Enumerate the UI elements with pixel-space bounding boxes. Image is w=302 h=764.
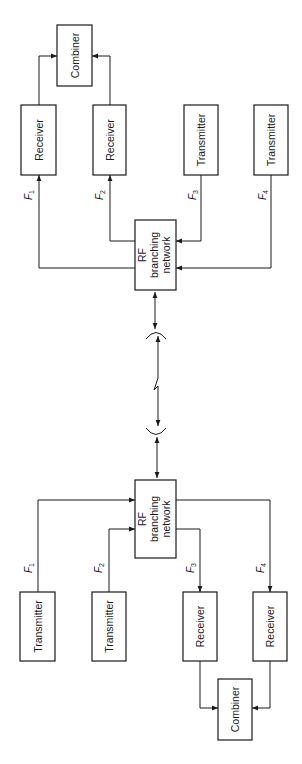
top-transmitter-3: Transmitter <box>184 105 218 175</box>
wire-r2-to-combiner <box>92 56 110 105</box>
radio-link <box>146 292 166 478</box>
top-transmitter-3-label: Transmitter <box>195 113 207 166</box>
bottom-receiver-3: Receiver <box>183 592 217 661</box>
wire-t2-to-rf <box>109 529 135 592</box>
top-station: Combiner Receiver Receiver Transmitter T… <box>21 25 288 290</box>
bottom-station: RF branching network Transmitter Transmi… <box>20 480 287 740</box>
bottom-combiner: Combiner <box>218 679 252 740</box>
top-rf-line1: RF <box>136 248 148 262</box>
bottom-rf-line3: network <box>160 500 172 538</box>
bottom-f1-label: F1 <box>23 563 35 573</box>
wire-rf-to-r1 <box>39 175 135 268</box>
top-rf-branching-network: RF branching network <box>135 220 176 290</box>
bottom-receiver-4: Receiver <box>253 592 287 661</box>
top-transmitter-4-label: Transmitter <box>265 113 277 166</box>
bottom-f2-label: F2 <box>93 563 105 573</box>
top-receiver-2: Receiver <box>93 105 126 175</box>
wire-t1-to-rf <box>38 500 135 592</box>
bottom-rf-branching-network: RF branching network <box>135 480 176 558</box>
top-f4-label: F4 <box>257 190 269 200</box>
bottom-combiner-label: Combiner <box>229 686 241 732</box>
wire-rf-to-r2 <box>110 175 135 241</box>
bottom-transmitter-1: Transmitter <box>20 592 55 661</box>
top-f2-label: F2 <box>94 190 106 200</box>
top-combiner: Combiner <box>57 25 92 86</box>
bottom-receiver-3-label: Receiver <box>194 605 206 647</box>
bottom-rf-line1: RF <box>136 512 148 526</box>
wire-r3-to-combiner <box>200 661 218 708</box>
top-rf-line2: branching <box>148 232 160 278</box>
bottom-receiver-4-label: Receiver <box>264 605 276 647</box>
bottom-rf-line2: branching <box>148 496 160 542</box>
wire-rf-to-r3 <box>176 529 200 592</box>
bottom-f3-label: F3 <box>185 563 197 573</box>
wire-t4-to-rf <box>176 175 271 268</box>
top-f1-label: F1 <box>23 190 35 200</box>
frequency-diversity-diagram: Combiner Receiver Receiver Transmitter T… <box>0 0 302 764</box>
radio-path-zigzag-icon <box>154 336 158 426</box>
top-f3-label: F3 <box>187 190 199 200</box>
bottom-transmitter-1-label: Transmitter <box>32 600 44 653</box>
top-combiner-label: Combiner <box>69 32 81 78</box>
top-receiver-2-label: Receiver <box>104 119 116 161</box>
bottom-transmitter-2-label: Transmitter <box>103 600 115 653</box>
top-antenna-dish-icon <box>146 333 166 340</box>
top-transmitter-4: Transmitter <box>254 105 288 175</box>
bottom-transmitter-2: Transmitter <box>92 592 126 661</box>
top-rf-line3: network <box>160 236 172 274</box>
wire-r4-to-combiner <box>252 661 270 708</box>
top-receiver-1-label: Receiver <box>33 119 45 161</box>
top-receiver-1: Receiver <box>21 105 56 175</box>
bottom-antenna-dish-icon <box>146 428 166 435</box>
wire-r1-to-combiner <box>39 56 57 105</box>
wire-rf-to-r4 <box>176 500 270 592</box>
bottom-f4-label: F4 <box>255 563 267 573</box>
wire-t3-to-rf <box>176 175 201 241</box>
